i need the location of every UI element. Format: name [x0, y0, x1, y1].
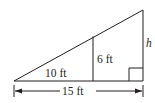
outer-height-label: h — [146, 37, 152, 49]
inner-height-label: 6 ft — [97, 53, 113, 65]
arrowhead-right-icon — [135, 89, 142, 94]
similar-triangles-diagram: 10 ft 6 ft h 15 ft — [0, 0, 155, 103]
right-angle-marker — [129, 68, 143, 81]
outer-triangle — [14, 10, 143, 81]
inner-base-label: 10 ft — [45, 67, 67, 79]
arrowhead-left-icon — [15, 89, 22, 94]
outer-base-label: 15 ft — [62, 85, 84, 97]
